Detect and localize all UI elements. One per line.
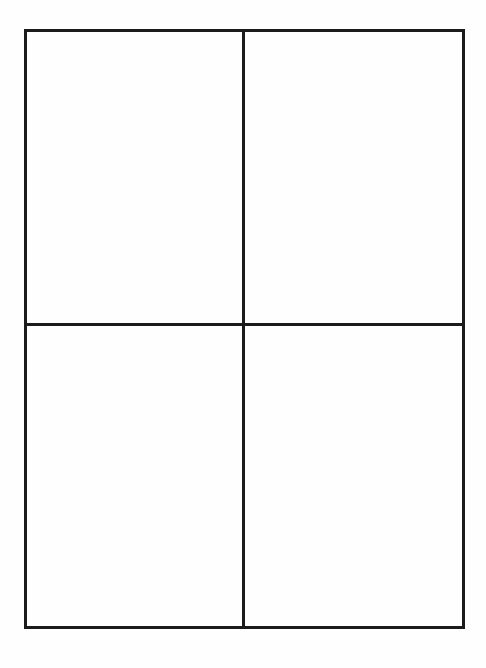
quadrant-cell-top-left[interactable] — [27, 32, 245, 326]
quadrant-cell-top-right[interactable] — [245, 32, 462, 326]
quadrant-cell-bottom-right[interactable] — [245, 326, 462, 626]
quadrant-cell-bottom-left[interactable] — [27, 326, 245, 626]
scanned-page — [0, 0, 486, 668]
quadrant-grid — [24, 29, 465, 629]
